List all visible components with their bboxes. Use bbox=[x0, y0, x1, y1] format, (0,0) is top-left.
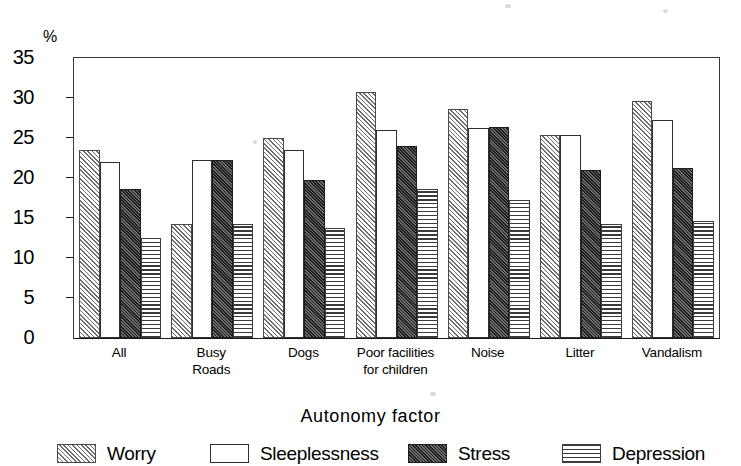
legend-item-worry[interactable]: Worry bbox=[57, 441, 156, 466]
bar-sleeplessness-litter bbox=[560, 135, 581, 338]
legend-swatch-worry bbox=[57, 444, 96, 463]
y-axis-tick-mark bbox=[66, 297, 73, 298]
x-axis-category-label-line: Vandalism bbox=[597, 345, 741, 362]
y-axis-tick-label: 25 bbox=[0, 127, 34, 147]
legend-swatch-stress bbox=[408, 444, 447, 463]
y-axis-unit-label: % bbox=[43, 28, 57, 46]
bar-depression-vandalism bbox=[693, 221, 714, 338]
legend-swatch-sleeplessness bbox=[210, 444, 249, 463]
plot-area bbox=[73, 57, 720, 339]
y-axis-tick-label: 0 bbox=[0, 327, 34, 347]
bar-depression-dogs bbox=[325, 228, 346, 338]
legend-swatch-depression bbox=[562, 444, 601, 463]
y-axis-tick-label: 10 bbox=[0, 247, 34, 267]
bars-layer bbox=[74, 58, 719, 338]
y-axis-tick-mark bbox=[66, 137, 73, 138]
chart-legend: WorrySleeplessnessStressDepression bbox=[0, 441, 741, 466]
bar-worry-poor-facilities-for-children bbox=[356, 92, 377, 338]
y-axis-tick-label: 35 bbox=[0, 47, 34, 67]
x-axis-title: Autonomy factor bbox=[0, 406, 741, 427]
bar-depression-busy-roads bbox=[233, 224, 254, 338]
scan-speck bbox=[505, 4, 511, 8]
bar-depression-noise bbox=[509, 200, 530, 338]
bar-worry-busy-roads bbox=[171, 224, 192, 338]
legend-label: Worry bbox=[107, 444, 156, 463]
scan-speck bbox=[663, 9, 668, 13]
bar-worry-litter bbox=[540, 135, 561, 338]
legend-label: Stress bbox=[458, 444, 510, 463]
bar-sleeplessness-dogs bbox=[284, 150, 305, 338]
legend-label: Sleeplessness bbox=[260, 444, 379, 463]
y-axis-tick-mark bbox=[66, 177, 73, 178]
scan-speck bbox=[430, 392, 436, 396]
x-axis-category-label: Vandalism bbox=[597, 345, 741, 362]
bar-stress-poor-facilities-for-children bbox=[397, 146, 418, 338]
y-axis-tick-label: 30 bbox=[0, 87, 34, 107]
bar-depression-poor-facilities-for-children bbox=[417, 189, 438, 338]
bar-stress-dogs bbox=[304, 180, 325, 338]
y-axis-tick-label: 15 bbox=[0, 207, 34, 227]
bar-depression-all bbox=[141, 238, 162, 338]
bar-worry-dogs bbox=[263, 138, 284, 338]
x-axis-category-label-line: Roads bbox=[136, 362, 286, 379]
bar-sleeplessness-all bbox=[100, 162, 121, 338]
bar-worry-all bbox=[79, 150, 100, 338]
legend-item-stress[interactable]: Stress bbox=[408, 441, 510, 466]
y-axis-tick-mark bbox=[66, 217, 73, 218]
bar-stress-vandalism bbox=[673, 168, 694, 338]
legend-item-sleeplessness[interactable]: Sleeplessness bbox=[210, 441, 379, 466]
legend-label: Depression bbox=[612, 444, 705, 463]
legend-item-depression[interactable]: Depression bbox=[562, 441, 705, 466]
bar-sleeplessness-busy-roads bbox=[192, 160, 213, 338]
bar-sleeplessness-vandalism bbox=[652, 120, 673, 338]
scan-speck bbox=[253, 140, 257, 144]
y-axis-tick-label: 20 bbox=[0, 167, 34, 187]
bar-worry-noise bbox=[448, 109, 469, 338]
bar-sleeplessness-noise bbox=[468, 128, 489, 338]
bar-stress-noise bbox=[489, 127, 510, 338]
bar-stress-litter bbox=[581, 170, 602, 338]
y-axis-tick-mark bbox=[66, 257, 73, 258]
bar-sleeplessness-poor-facilities-for-children bbox=[376, 130, 397, 338]
bar-stress-busy-roads bbox=[212, 160, 233, 338]
y-axis-tick-label: 5 bbox=[0, 287, 34, 307]
x-axis-category-label-line: for children bbox=[321, 362, 471, 379]
bar-stress-all bbox=[120, 189, 141, 338]
bar-worry-vandalism bbox=[632, 101, 653, 338]
bar-chart: % 05101520253035 AllBusyRoadsDogsPoor fa… bbox=[0, 0, 741, 466]
bar-depression-litter bbox=[601, 224, 622, 338]
y-axis-tick-mark bbox=[66, 97, 73, 98]
